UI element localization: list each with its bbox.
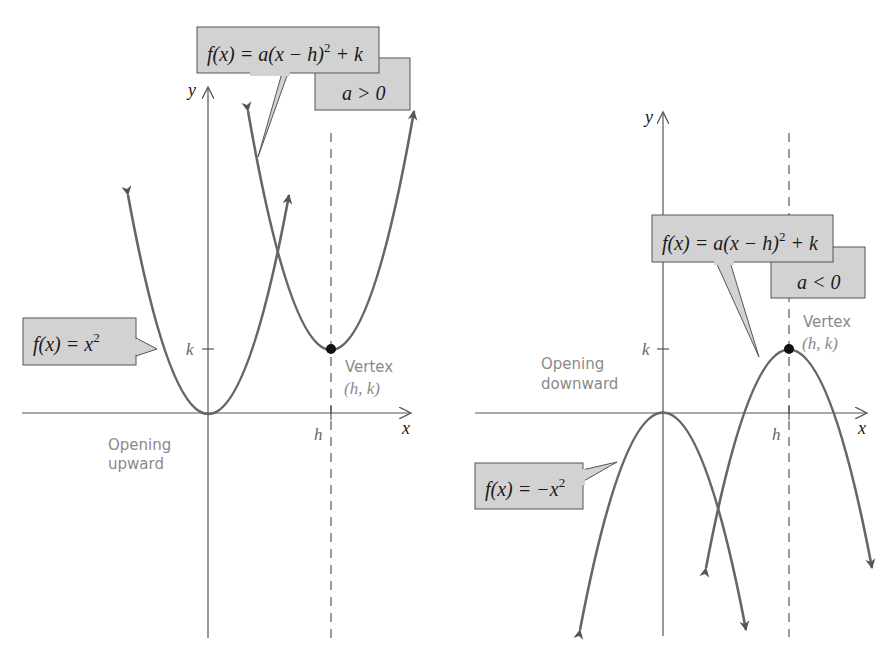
- vertex-coords: (h, k): [344, 379, 380, 398]
- k-tick-label: k: [186, 340, 194, 359]
- h-tick-label: h: [772, 425, 781, 444]
- callout-general-form: f(x) = a(x − h)2 + k a > 0: [197, 27, 410, 157]
- y-axis-label: y: [186, 80, 196, 100]
- condition-a-positive: a > 0: [342, 82, 386, 104]
- vertex-point: [326, 344, 336, 354]
- x-axis-label: x: [401, 418, 410, 438]
- opening-note-line1: Opening: [108, 436, 171, 454]
- callout-basic: f(x) = x2: [23, 318, 157, 365]
- y-axis-label: y: [643, 107, 653, 127]
- vertex-point: [784, 344, 794, 354]
- opening-note-line1: Opening: [541, 355, 604, 373]
- callout-basic: f(x) = −x2: [475, 462, 617, 509]
- x-axis-label: x: [857, 418, 866, 438]
- diagram-canvas: y x k h Vertex (h, k) Opening upward f(x…: [0, 0, 892, 662]
- vertex-label: Vertex: [345, 358, 393, 376]
- opening-note-line2: upward: [108, 455, 164, 473]
- right-graph: y x k h Vertex (h, k) Opening downward f…: [475, 107, 872, 637]
- formula-general: f(x) = a(x − h)2 + k: [207, 40, 364, 66]
- formula-basic: f(x) = −x2: [485, 475, 565, 501]
- formula-general: f(x) = a(x − h)2 + k: [662, 229, 819, 255]
- vertex-label: Vertex: [803, 313, 851, 331]
- condition-a-negative: a < 0: [797, 271, 841, 293]
- left-graph: y x k h Vertex (h, k) Opening upward f(x…: [22, 27, 414, 640]
- h-tick-label: h: [314, 425, 323, 444]
- k-tick-label: k: [642, 340, 650, 359]
- opening-note-line2: downward: [541, 375, 618, 393]
- formula-basic: f(x) = x2: [33, 330, 100, 356]
- vertex-coords: (h, k): [802, 334, 838, 353]
